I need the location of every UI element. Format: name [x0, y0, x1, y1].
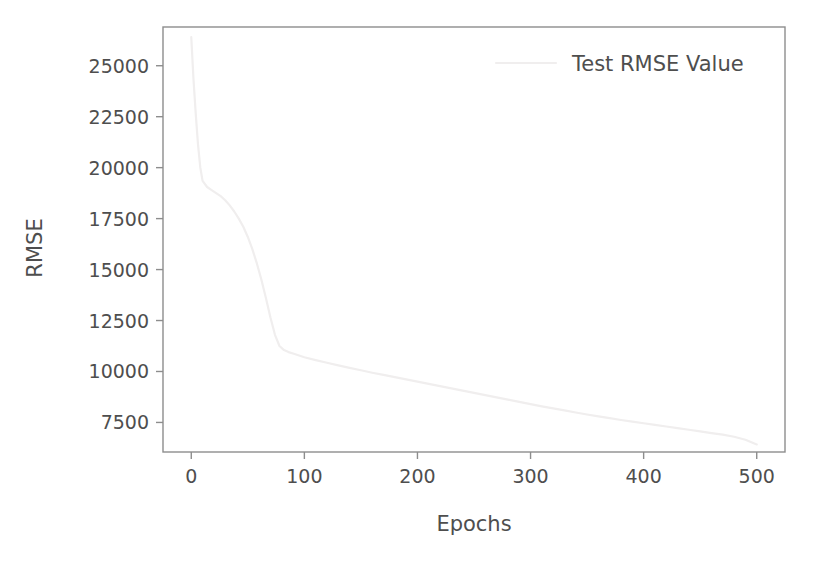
plot-area-frame [163, 27, 785, 452]
data-series-group [191, 37, 756, 444]
x-axis-title: Epochs [436, 512, 511, 536]
y-axis-tick-labels: 750010000125001500017500200002250025000 [89, 55, 149, 434]
y-axis-title: RMSE [23, 218, 47, 277]
x-axis-ticks [191, 452, 756, 459]
chart-figure: 750010000125001500017500200002250025000 … [0, 0, 825, 563]
line-chart-svg: 750010000125001500017500200002250025000 … [0, 0, 825, 563]
series-line-test-rmse-value [191, 37, 756, 444]
y-tick-label: 17500 [89, 208, 149, 230]
x-tick-label: 300 [512, 465, 548, 487]
y-tick-label: 7500 [101, 411, 149, 433]
y-tick-label: 25000 [89, 55, 149, 77]
x-tick-label: 200 [399, 465, 435, 487]
y-tick-label: 10000 [89, 360, 149, 382]
y-tick-label: 12500 [89, 310, 149, 332]
legend: Test RMSE Value [496, 52, 744, 76]
y-tick-label: 20000 [89, 157, 149, 179]
legend-label-test-rmse-value: Test RMSE Value [571, 52, 744, 76]
y-axis-ticks [156, 66, 163, 423]
x-tick-label: 400 [626, 465, 662, 487]
y-tick-label: 22500 [89, 106, 149, 128]
x-tick-label: 0 [185, 465, 197, 487]
y-tick-label: 15000 [89, 259, 149, 281]
x-tick-label: 100 [286, 465, 322, 487]
x-axis-tick-labels: 0100200300400500 [185, 465, 775, 487]
x-tick-label: 500 [739, 465, 775, 487]
